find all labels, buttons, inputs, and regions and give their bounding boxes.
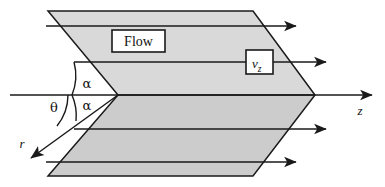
flow-diagram: Flow vz z r α α θ [0,0,385,187]
z-axis-label: z [356,103,362,118]
flow-label: Flow [124,34,154,49]
angle-label-theta: θ [50,100,58,115]
r-axis-label: r [19,136,25,151]
angle-arc-alpha-lower [72,95,76,121]
velocity-subscript: z [257,64,262,74]
angle-arc-alpha-upper [72,62,76,95]
angle-arc-theta [57,95,68,126]
angle-label-alpha-lower: α [83,98,92,113]
diagram-canvas: Flow vz z r α α θ [0,0,385,187]
angle-label-alpha-upper: α [83,76,92,91]
